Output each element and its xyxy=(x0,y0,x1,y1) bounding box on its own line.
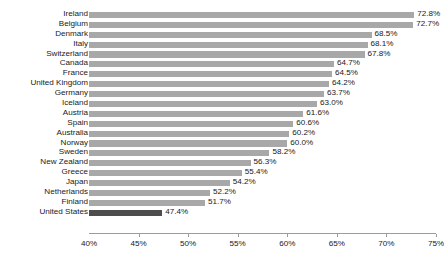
bar-track: 61.6% xyxy=(89,109,438,119)
bar-track: 54.2% xyxy=(89,178,438,188)
bar xyxy=(89,71,332,77)
bar-track: 51.7% xyxy=(89,198,438,208)
category-label: Italy xyxy=(0,39,88,49)
bar-value-label: 47.4% xyxy=(162,207,188,217)
bar-track: 63.0% xyxy=(89,99,438,109)
x-axis-tick-label: 65% xyxy=(329,238,345,249)
bar xyxy=(89,111,303,117)
category-label: France xyxy=(0,68,88,78)
bar xyxy=(89,91,324,97)
category-label: United States xyxy=(0,207,88,217)
bar-track: 55.4% xyxy=(89,168,438,178)
category-label: Iceland xyxy=(0,98,88,108)
category-label: New Zealand xyxy=(0,157,88,167)
x-axis-tick-label: 60% xyxy=(279,238,295,249)
bar-track: 64.2% xyxy=(89,79,438,89)
category-label: Netherlands xyxy=(0,187,88,197)
bar-value-label: 60.2% xyxy=(289,128,315,138)
bar-value-label: 51.7% xyxy=(205,197,231,207)
bar-value-label: 64.5% xyxy=(332,68,358,78)
bar xyxy=(89,12,414,18)
bar-track: 64.5% xyxy=(89,69,438,79)
bar xyxy=(89,150,269,156)
bar xyxy=(89,190,210,196)
bar-value-label: 60.6% xyxy=(293,118,319,128)
x-axis-tick xyxy=(238,234,239,237)
bar-value-label: 60.0% xyxy=(287,138,313,148)
bar-value-label: 58.2% xyxy=(269,147,295,157)
bar-value-label: 72.7% xyxy=(413,19,439,29)
bar-value-label: 52.2% xyxy=(210,187,236,197)
category-label: Japan xyxy=(0,177,88,187)
chart-row: United States47.4% xyxy=(0,208,438,218)
category-label: United Kingdom xyxy=(0,78,88,88)
bar xyxy=(89,101,317,107)
category-label: Switzerland xyxy=(0,49,88,59)
category-label: Belgium xyxy=(0,19,88,29)
category-label: Australia xyxy=(0,128,88,138)
category-label: Sweden xyxy=(0,147,88,157)
bar xyxy=(89,121,293,127)
bar xyxy=(89,160,251,166)
bar xyxy=(89,170,242,176)
bar-value-label: 55.4% xyxy=(242,167,268,177)
bar-value-label: 56.3% xyxy=(251,157,277,167)
category-label: Canada xyxy=(0,58,88,68)
bar xyxy=(89,180,230,186)
bar xyxy=(89,210,162,216)
category-label: Norway xyxy=(0,138,88,148)
x-axis-tick xyxy=(386,234,387,237)
bar xyxy=(89,81,329,87)
bar-track: 47.4% xyxy=(89,208,438,218)
bar-value-label: 63.7% xyxy=(324,88,350,98)
x-axis-tick-label: 55% xyxy=(230,238,246,249)
x-axis-tick xyxy=(436,234,437,237)
bar-value-label: 64.2% xyxy=(329,78,355,88)
category-label: Finland xyxy=(0,197,88,207)
bar-value-label: 68.1% xyxy=(368,39,394,49)
x-axis-tick xyxy=(337,234,338,237)
bar-track: 63.7% xyxy=(89,89,438,99)
chart-plot-area: Ireland72.8%Belgium72.7%Denmark68.5%Ital… xyxy=(0,10,438,218)
bar-value-label: 64.7% xyxy=(334,58,360,68)
x-axis-tick-label: 40% xyxy=(81,238,97,249)
bar xyxy=(89,131,289,137)
bar-value-label: 54.2% xyxy=(230,177,256,187)
category-label: Spain xyxy=(0,118,88,128)
bar-track: 60.0% xyxy=(89,139,438,149)
bar-value-label: 68.5% xyxy=(372,29,398,39)
bar-track: 67.8% xyxy=(89,50,438,60)
bar xyxy=(89,61,334,67)
x-axis-tick xyxy=(287,234,288,237)
bar xyxy=(89,32,372,38)
x-axis-tick-label: 70% xyxy=(378,238,394,249)
x-axis-tick xyxy=(188,234,189,237)
bar xyxy=(89,42,368,48)
category-label: Greece xyxy=(0,167,88,177)
bar-track: 64.7% xyxy=(89,59,438,69)
x-axis-tick-label: 50% xyxy=(180,238,196,249)
bar xyxy=(89,51,365,57)
bar-value-label: 67.8% xyxy=(365,49,391,59)
category-label: Denmark xyxy=(0,29,88,39)
bar-track: 72.8% xyxy=(89,10,438,20)
x-axis-line xyxy=(89,233,436,234)
bar-track: 60.2% xyxy=(89,129,438,139)
bar-value-label: 61.6% xyxy=(303,108,329,118)
bar-track: 52.2% xyxy=(89,188,438,198)
x-axis-tick-label: 75% xyxy=(428,238,444,249)
bar-track: 60.6% xyxy=(89,119,438,129)
bar-value-label: 63.0% xyxy=(317,98,343,108)
category-label: Ireland xyxy=(0,9,88,19)
category-label: Germany xyxy=(0,88,88,98)
bar xyxy=(89,200,205,206)
bar-value-label: 72.8% xyxy=(414,9,440,19)
x-axis-tick xyxy=(139,234,140,237)
category-label: Austria xyxy=(0,108,88,118)
bar xyxy=(89,22,413,28)
bar xyxy=(89,140,287,146)
x-axis-tick-label: 45% xyxy=(130,238,146,249)
